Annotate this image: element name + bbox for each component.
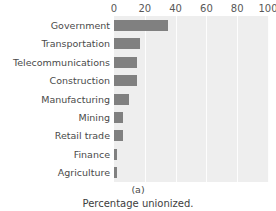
x-tick-label-60: 60 bbox=[200, 2, 213, 15]
gridline-60 bbox=[206, 16, 207, 182]
bar-finance bbox=[114, 149, 117, 160]
bar-mining bbox=[114, 112, 123, 123]
x-tick-label-80: 80 bbox=[231, 2, 244, 15]
category-label-retail-trade: Retail trade bbox=[0, 130, 110, 141]
x-tick-label-0: 0 bbox=[111, 2, 117, 15]
category-label-transportation: Transportation bbox=[0, 38, 110, 49]
bar-manufacturing bbox=[114, 94, 129, 105]
figure-caption: (a) Percentage unionized. bbox=[0, 184, 276, 210]
x-tick-label-100: 100 bbox=[258, 2, 276, 15]
gridline-40 bbox=[176, 16, 177, 182]
category-label-manufacturing: Manufacturing bbox=[0, 94, 110, 105]
bar-retail-trade bbox=[114, 130, 123, 141]
category-label-government: Government bbox=[0, 20, 110, 31]
plot-area bbox=[114, 16, 268, 182]
caption-letter: (a) bbox=[0, 184, 276, 196]
bar-transportation bbox=[114, 38, 140, 49]
gridline-100 bbox=[268, 16, 269, 182]
bar-agriculture bbox=[114, 167, 117, 178]
gridline-20 bbox=[145, 16, 146, 182]
category-label-agriculture: Agriculture bbox=[0, 167, 110, 178]
caption-text: Percentage unionized. bbox=[0, 197, 276, 210]
bar-government bbox=[114, 20, 168, 31]
gridline-80 bbox=[237, 16, 238, 182]
category-label-finance: Finance bbox=[0, 149, 110, 160]
category-label-mining: Mining bbox=[0, 112, 110, 123]
category-label-telecommunications: Telecommunications bbox=[0, 57, 110, 68]
x-tick-label-20: 20 bbox=[138, 2, 151, 15]
category-axis-labels: GovernmentTransportationTelecommunicatio… bbox=[0, 16, 110, 182]
bar-construction bbox=[114, 75, 137, 86]
bar-telecommunications bbox=[114, 57, 137, 68]
x-tick-label-40: 40 bbox=[169, 2, 182, 15]
x-axis-tick-labels: 020406080100 bbox=[114, 2, 268, 16]
bar-chart-figure: 020406080100 GovernmentTransportationTel… bbox=[0, 0, 276, 211]
category-label-construction: Construction bbox=[0, 75, 110, 86]
